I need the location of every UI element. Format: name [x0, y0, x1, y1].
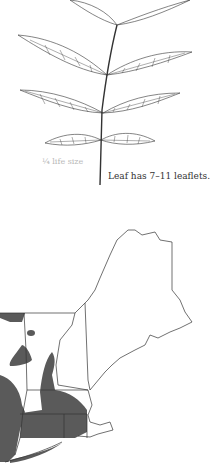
scale-label: ¼ life size	[42, 157, 83, 166]
range-map	[0, 200, 211, 467]
leaflet-caption: Leaf has 7–11 leaflets.	[108, 171, 210, 181]
leaf-illustration	[0, 0, 211, 190]
